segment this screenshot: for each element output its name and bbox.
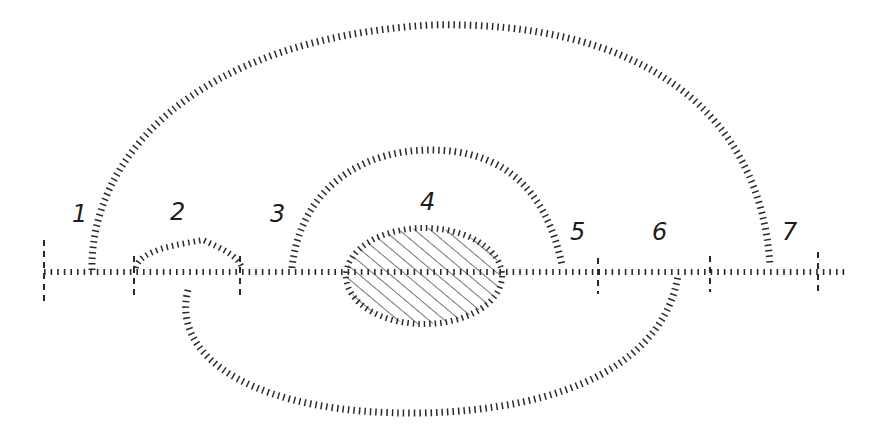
label-5: 5 [570, 218, 585, 246]
label-7: 7 [782, 218, 798, 246]
label-3: 3 [270, 200, 285, 228]
label-1: 1 [72, 200, 87, 228]
label-4: 4 [420, 188, 435, 216]
bump [136, 240, 242, 268]
hatched-ellipse [346, 228, 502, 324]
diagram-canvas: 1 2 3 4 5 6 7 [0, 0, 895, 448]
label-6: 6 [652, 218, 667, 246]
label-2: 2 [170, 198, 185, 226]
